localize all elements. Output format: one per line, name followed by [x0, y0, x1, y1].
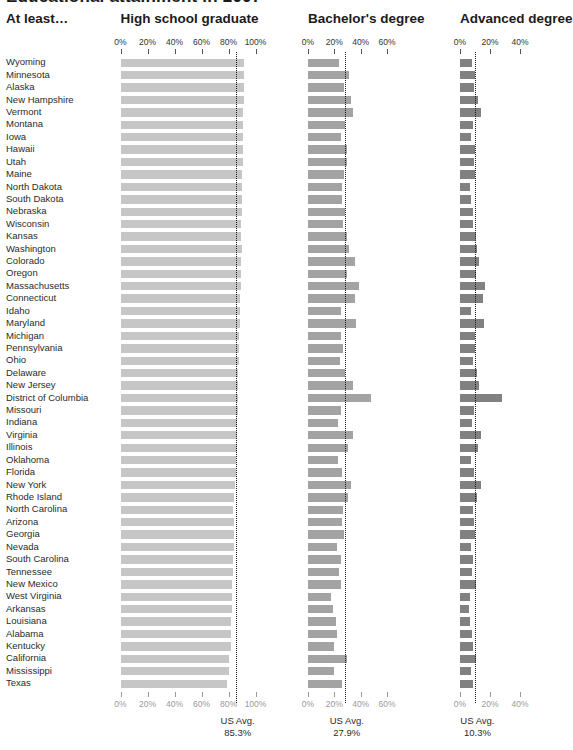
bar-hs [121, 667, 230, 675]
bar-hs [121, 357, 239, 365]
bar-adv [460, 655, 476, 663]
bar-hs [121, 617, 231, 625]
axis-tick-label: 0% [454, 699, 466, 709]
bar-hs [121, 319, 240, 327]
state-label: Arkansas [6, 604, 46, 614]
bar-ba [308, 71, 349, 79]
row-header-label: At least… [6, 11, 68, 26]
bar-ba [308, 630, 337, 638]
bar-hs [121, 642, 231, 650]
bar-ba [308, 680, 342, 688]
bar-hs [121, 270, 241, 278]
state-label: Missouri [6, 405, 41, 415]
state-label: District of Columbia [6, 393, 88, 403]
state-label: Idaho [6, 306, 30, 316]
state-label: Mississippi [6, 666, 52, 676]
axis-tick [229, 49, 230, 54]
us-average-caption: US Avg. [221, 715, 255, 727]
bar-adv [460, 108, 481, 116]
axis-tick [202, 692, 203, 697]
bar-ba [308, 506, 343, 514]
bar-hs [121, 220, 242, 228]
bar-adv [460, 357, 473, 365]
bar-ba [308, 282, 359, 290]
state-label: Colorado [6, 256, 45, 266]
bar-ba [308, 170, 344, 178]
axis-tick [361, 692, 362, 697]
bar-adv [460, 145, 475, 153]
axis-tick [256, 692, 257, 697]
bar-adv [460, 208, 473, 216]
axis-tick [175, 692, 176, 697]
state-label: Minnesota [6, 70, 50, 80]
bar-adv [460, 543, 471, 551]
bar-ba [308, 431, 353, 439]
state-label: Delaware [6, 368, 46, 378]
bar-hs [121, 593, 233, 601]
state-label: West Virginia [6, 591, 62, 601]
bar-adv [460, 406, 474, 414]
state-label: California [6, 653, 46, 663]
us-average-label-ba: US Avg.27.9% [330, 715, 364, 739]
bar-adv [460, 59, 472, 67]
bar-hs [121, 530, 234, 538]
bar-hs [121, 543, 234, 551]
bar-ba [308, 257, 355, 265]
bar-hs [121, 580, 233, 588]
state-label: Kentucky [6, 641, 45, 651]
axis-tick-label: 60% [378, 699, 395, 709]
bar-adv [460, 158, 474, 166]
state-label: Massachusetts [6, 281, 69, 291]
bar-ba [308, 319, 356, 327]
axis-tick-label: 60% [378, 37, 395, 47]
us-average-label-hs: US Avg.85.3% [221, 715, 255, 739]
bar-adv [460, 83, 474, 91]
axis-tick-label: 0% [302, 37, 314, 47]
axis-tick-label: 20% [326, 699, 343, 709]
us-average-value: 10.3% [460, 727, 494, 739]
bar-hs [121, 332, 240, 340]
bar-hs [121, 394, 239, 402]
bar-adv [460, 419, 472, 427]
bar-adv [460, 593, 470, 601]
state-label: Illinois [6, 442, 32, 452]
bar-adv [460, 220, 473, 228]
bar-hs [121, 344, 240, 352]
state-label: Oklahoma [6, 455, 49, 465]
bar-hs [121, 257, 242, 265]
bar-adv [460, 667, 471, 675]
bar-ba [308, 220, 343, 228]
axis-tick-label: 40% [511, 699, 528, 709]
axis-tick [490, 49, 491, 54]
axis-tick-label: 0% [454, 37, 466, 47]
bar-ba [308, 121, 345, 129]
bar-ba [308, 245, 349, 253]
state-label: Pennsylvania [6, 343, 63, 353]
axis-tick [490, 692, 491, 697]
bar-hs [121, 96, 244, 104]
axis-tick [460, 692, 461, 697]
bar-ba [308, 145, 347, 153]
state-label: Nebraska [6, 206, 47, 216]
bar-hs [121, 655, 230, 663]
state-label: New Jersey [6, 380, 56, 390]
bar-ba [308, 468, 342, 476]
state-label: South Dakota [6, 194, 64, 204]
bar-hs [121, 630, 232, 638]
bar-adv [460, 71, 475, 79]
axis-tick-label: 0% [302, 699, 314, 709]
bar-hs [121, 555, 234, 563]
us-average-reference-line-hs [236, 52, 237, 703]
axis-tick [175, 49, 176, 54]
bar-ba [308, 555, 341, 563]
bar-ba [308, 357, 340, 365]
bar-hs [121, 518, 235, 526]
bar-adv [460, 506, 473, 514]
state-label: Connecticut [6, 293, 56, 303]
bar-ba [308, 381, 353, 389]
axis-tick [460, 49, 461, 54]
bar-ba [308, 344, 343, 352]
us-average-caption: US Avg. [460, 715, 494, 727]
bar-hs [121, 208, 242, 216]
state-label: Louisiana [6, 616, 47, 626]
